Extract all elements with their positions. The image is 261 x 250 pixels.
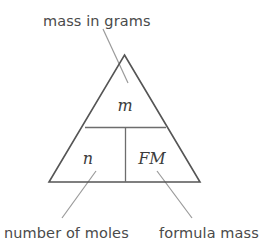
leader-line-bottom-left <box>62 171 96 218</box>
label-number-of-moles: number of moles <box>4 225 129 241</box>
cell-symbol-moles: n <box>83 149 93 168</box>
label-mass-in-grams: mass in grams <box>43 13 151 29</box>
mole-triangle-diagram: m n FM mass in grams number of moles for… <box>0 0 261 250</box>
leader-line-bottom-right <box>157 171 192 218</box>
diagram-canvas: m n FM mass in grams number of moles for… <box>0 0 261 250</box>
label-formula-mass: formula mass <box>159 225 259 241</box>
cell-symbol-formula-mass: FM <box>137 149 166 168</box>
cell-symbol-mass: m <box>117 96 132 115</box>
